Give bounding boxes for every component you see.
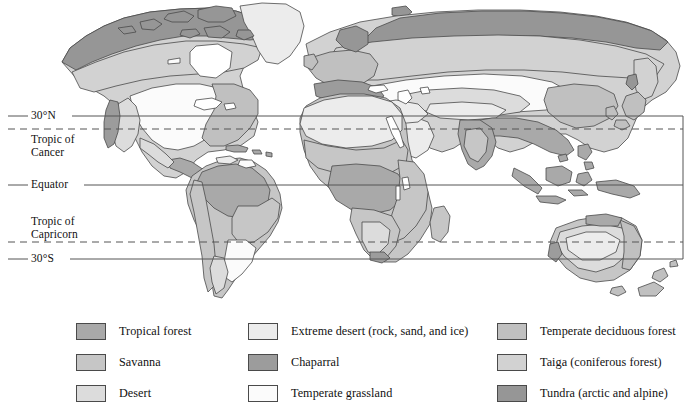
- legend-swatch-temperate-grassland: [248, 385, 278, 402]
- legend-item: Taiga (coniferous forest): [497, 349, 676, 375]
- legend-label-taiga: Taiga (coniferous forest): [540, 355, 662, 370]
- map-legend: Tropical forest Savanna Desert Extreme d…: [0, 300, 687, 410]
- landmass-australia: [548, 214, 678, 296]
- java: [536, 196, 566, 204]
- island-small-1: [568, 190, 588, 196]
- legend-swatch-temperate-deciduous-forest: [497, 323, 527, 340]
- caribbean-2: [252, 150, 262, 154]
- nz-islet: [670, 260, 678, 267]
- eurasia-extreme-desert: [426, 102, 506, 120]
- label-tropic-of-cancer-line1: Tropic of: [31, 133, 75, 146]
- caribbean-3: [266, 152, 272, 157]
- label-tropic-of-capricorn-line1: Tropic of: [31, 215, 78, 228]
- new-zealand-south: [638, 282, 664, 296]
- legend-label-desert: Desert: [119, 386, 151, 401]
- world-biome-map-figure: 30°N Tropic of Cancer Equator Tropic of …: [0, 0, 687, 410]
- legend-label-tundra: Tundra (arctic and alpine): [540, 386, 668, 401]
- legend-item: Temperate grassland: [248, 380, 468, 406]
- label-tropic-of-cancer-line2: Cancer: [31, 146, 75, 159]
- madagascar: [430, 206, 450, 242]
- label-tropic-of-cancer: Tropic of Cancer: [31, 133, 75, 159]
- label-30n: 30°N: [31, 109, 56, 122]
- tasmania: [610, 286, 626, 296]
- legend-label-temperate-deciduous-forest: Temperate deciduous forest: [540, 324, 676, 339]
- philippines-2: [584, 162, 594, 170]
- legend-column-3: Temperate deciduous forest Taiga (conife…: [497, 318, 676, 410]
- sulawesi: [576, 172, 592, 186]
- legend-item: Tundra (arctic and alpine): [497, 380, 676, 406]
- legend-swatch-tundra: [497, 385, 527, 402]
- legend-label-tropical-forest: Tropical forest: [119, 324, 191, 339]
- legend-swatch-extreme-desert: [248, 323, 278, 340]
- legend-label-temperate-grassland: Temperate grassland: [291, 386, 392, 401]
- label-tropic-of-capricorn-line2: Capricorn: [31, 228, 78, 241]
- legend-swatch-desert: [76, 385, 106, 402]
- new-zealand-north: [652, 268, 668, 282]
- legend-label-savanna: Savanna: [119, 355, 161, 370]
- legend-column-1: Tropical forest Savanna Desert: [76, 318, 191, 410]
- legend-swatch-taiga: [497, 354, 527, 371]
- label-30s: 30°S: [31, 252, 54, 265]
- sahara-desert: [300, 96, 402, 148]
- legend-swatch-chaparral: [248, 354, 278, 371]
- legend-swatch-savanna: [76, 354, 106, 371]
- legend-item: Chaparral: [248, 349, 468, 375]
- legend-label-extreme-desert: Extreme desert (rock, sand, and ice): [291, 324, 468, 339]
- sumatra: [512, 168, 542, 194]
- legend-item: Extreme desert (rock, sand, and ice): [248, 318, 468, 344]
- legend-item: Desert: [76, 380, 191, 406]
- aral-sea: [420, 87, 430, 94]
- label-equator: Equator: [31, 178, 68, 191]
- australia-north-tropical: [586, 214, 622, 226]
- new-guinea: [596, 180, 640, 198]
- landmass-south-america: [186, 156, 282, 298]
- sa-grassland: [224, 240, 256, 282]
- world-map-svg: [0, 0, 687, 300]
- legend-column-2: Extreme desert (rock, sand, and ice) Cha…: [248, 318, 468, 410]
- rift-lake-2: [396, 186, 400, 200]
- legend-item: Tropical forest: [76, 318, 191, 344]
- label-tropic-of-capricorn: Tropic of Capricorn: [31, 215, 78, 241]
- landmass-southeast-asia-islands: [512, 144, 640, 204]
- borneo: [546, 166, 572, 186]
- legend-item: Temperate deciduous forest: [497, 318, 676, 344]
- map-area: 30°N Tropic of Cancer Equator Tropic of …: [0, 0, 687, 300]
- legend-item: Savanna: [76, 349, 191, 375]
- legend-swatch-tropical-forest: [76, 323, 106, 340]
- caribbean-1: [226, 145, 248, 152]
- island-small-2: [558, 154, 568, 162]
- legend-label-chaparral: Chaparral: [291, 355, 340, 370]
